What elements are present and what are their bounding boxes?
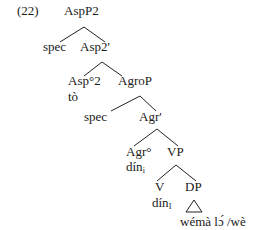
node-agr-bar: Agr' <box>139 110 162 124</box>
node-aspp2: AspP2 <box>64 4 99 18</box>
word-din-v: dínI <box>152 196 171 214</box>
node-spec-2: spec <box>84 110 107 124</box>
word-din-v-text: dín <box>152 195 169 210</box>
node-agrop: AgroP <box>118 74 152 88</box>
index-i: i <box>143 166 145 175</box>
word-din-agr-text: dín <box>126 159 143 174</box>
node-agr-head: Agr° <box>126 145 151 159</box>
node-dp: DP <box>185 180 202 194</box>
node-asp2-bar: Asp2' <box>80 40 110 54</box>
node-v: V <box>155 180 164 194</box>
node-vp: VP <box>167 145 184 159</box>
example-number: (22) <box>17 4 39 18</box>
dp-content: wémà lɔ́ /wè <box>180 215 246 229</box>
word-to: tò <box>68 90 78 104</box>
index-I: I <box>169 202 172 211</box>
node-spec-1: spec <box>43 40 66 54</box>
node-asp2-head: Asp°2 <box>68 74 101 88</box>
word-din-agr: díni <box>126 160 145 178</box>
tree-branches <box>0 0 272 230</box>
